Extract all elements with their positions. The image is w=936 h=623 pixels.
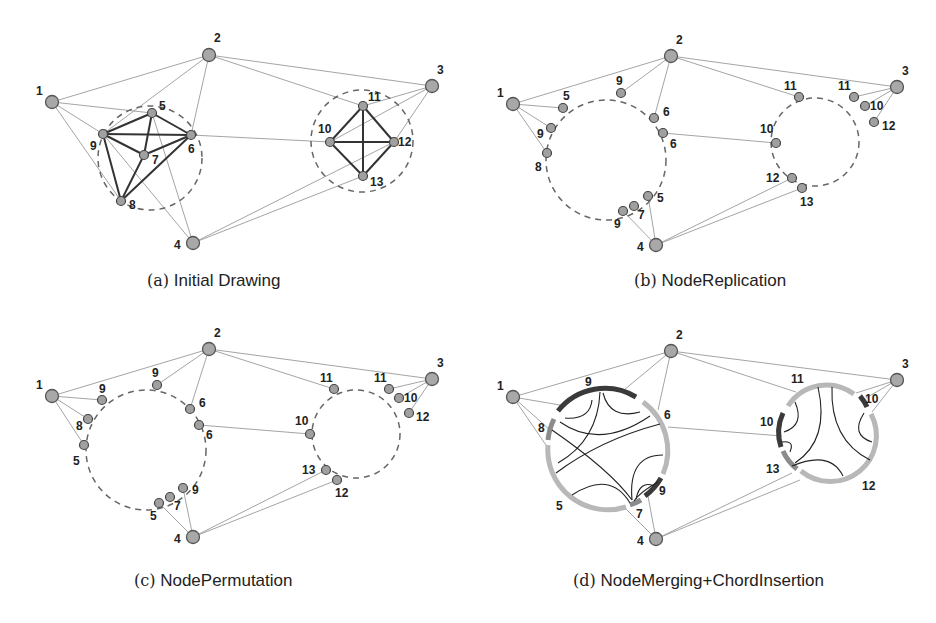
node-label: 2 <box>676 33 683 47</box>
node-label: 8 <box>76 419 83 433</box>
node-label: 3 <box>437 356 444 370</box>
caption-c-text: NodePermutation <box>160 571 292 590</box>
node-1 <box>46 96 59 109</box>
node-label: 11 <box>374 371 387 385</box>
caption-c-tag: (c) <box>134 571 155 590</box>
node-2 <box>665 345 678 358</box>
node-3 <box>891 81 904 94</box>
node-label: 3 <box>902 357 909 371</box>
arc-label: 12 <box>862 479 876 493</box>
node-label: 2 <box>676 328 683 342</box>
node-4 <box>187 237 200 250</box>
node-label: 1 <box>36 84 43 98</box>
node-label: 4 <box>637 240 644 254</box>
node-12 <box>405 409 414 418</box>
node-label: 11 <box>784 79 797 93</box>
arc-9-top <box>558 388 636 411</box>
node-5 <box>80 441 89 450</box>
node-label: 8 <box>535 160 542 174</box>
node-label: 9 <box>152 366 159 380</box>
node-1 <box>46 390 59 403</box>
node-label: 5 <box>657 191 664 205</box>
arc-label: 6 <box>664 408 671 422</box>
panel-d-node-merging-chord-insertion: 12349689751110101312 <box>497 328 909 548</box>
arc-label: 10 <box>760 415 774 429</box>
node-label: 10 <box>404 391 418 405</box>
node-2 <box>203 343 216 356</box>
arc-12-right <box>801 414 876 482</box>
node-label: 7 <box>638 208 645 222</box>
node-label: 10 <box>760 122 774 136</box>
arc-8 <box>548 419 554 440</box>
node-label: 13 <box>302 463 316 477</box>
node-6 <box>650 114 659 123</box>
node-5 <box>644 192 653 201</box>
node-9 <box>619 207 628 216</box>
panel-a-thin-edges <box>52 55 432 243</box>
node-11 <box>330 385 339 394</box>
node-8 <box>543 149 552 158</box>
caption-b: (b) NodeReplication <box>634 271 786 291</box>
node-6 <box>186 405 195 414</box>
node-13 <box>322 466 331 475</box>
node-label: 10 <box>870 99 884 113</box>
node-8 <box>84 415 93 424</box>
node-label: 6 <box>670 137 677 151</box>
node-3 <box>426 373 439 386</box>
node-label: 11 <box>320 371 333 385</box>
node-label: 12 <box>416 410 430 424</box>
node-label: 9 <box>90 139 97 153</box>
node-label: 9 <box>99 382 106 396</box>
figure-canvas: 12345967811101213 1234598966579111110121… <box>0 0 936 623</box>
node-10 <box>306 430 315 439</box>
node-label: 6 <box>188 142 195 156</box>
node-1 <box>507 391 520 404</box>
arc-label: 5 <box>556 499 563 513</box>
cluster-outline-right <box>771 98 859 186</box>
arc-label: 9 <box>585 375 592 389</box>
node-10 <box>326 138 335 147</box>
node-10 <box>395 394 404 403</box>
node-label: 9 <box>537 127 544 141</box>
node-label: 3 <box>902 64 909 78</box>
node-4 <box>187 531 200 544</box>
arc-label: 10 <box>865 392 879 406</box>
node-11 <box>385 385 394 394</box>
node-label: 13 <box>370 175 384 189</box>
node-10 <box>861 102 870 111</box>
node-label: 6 <box>206 428 213 442</box>
node-3 <box>426 80 439 93</box>
node-7 <box>140 151 149 160</box>
chord-diagram-right <box>779 385 877 482</box>
node-label: 8 <box>129 198 136 212</box>
panel-b-node-replication: 123459896657911111012101213 <box>497 33 909 254</box>
node-9 <box>99 130 108 139</box>
node-13 <box>359 172 368 181</box>
caption-a: (a) Initial Drawing <box>147 271 281 291</box>
node-label: 3 <box>437 63 444 77</box>
node-label: 4 <box>174 532 181 546</box>
node-8 <box>117 197 126 206</box>
panel-d-thin-edges <box>513 351 897 539</box>
node-label: 9 <box>614 217 621 231</box>
node-5 <box>155 499 164 508</box>
node-9 <box>153 381 162 390</box>
caption-b-tag: (b) <box>634 271 657 290</box>
caption-d-tag: (d) <box>573 571 596 590</box>
node-label: 7 <box>152 153 159 167</box>
node-label: 4 <box>174 238 181 252</box>
node-label: 1 <box>36 378 43 392</box>
node-label: 4 <box>637 534 644 548</box>
chord-diagram-left <box>548 388 668 509</box>
node-9 <box>547 124 556 133</box>
node-label: 6 <box>663 105 670 119</box>
node-12 <box>788 174 797 183</box>
node-4 <box>650 239 663 252</box>
node-10 <box>772 139 781 148</box>
node-4 <box>650 533 663 546</box>
arc-label: 7 <box>636 507 643 521</box>
node-label: 13 <box>800 195 814 209</box>
node-6 <box>659 129 668 138</box>
node-label: 11 <box>838 79 851 93</box>
node-label: 12 <box>335 486 349 500</box>
